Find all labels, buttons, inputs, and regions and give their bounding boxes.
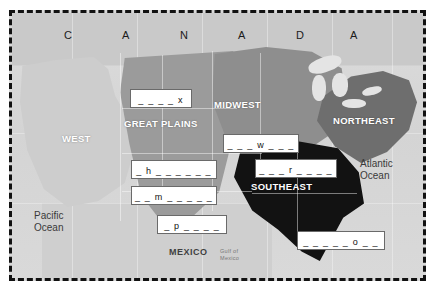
answer-blank-m[interactable]: _ _ m _ _ _ _ _ — [131, 186, 217, 205]
canada-letter: D — [296, 29, 304, 41]
state-boundary — [120, 53, 121, 221]
state-boundary — [122, 153, 262, 154]
answer-blank-w[interactable]: _ _ _ w _ _ _ — [223, 134, 299, 153]
water-label-atlantic: Atlantic Ocean — [360, 158, 393, 182]
water-label-line2: Ocean — [360, 170, 393, 182]
answer-blank-p-text: _ p _ _ _ _ — [164, 222, 220, 231]
answer-blank-h-text: _ h _ _ _ _ _ _ — [136, 167, 212, 176]
water-label-line1: Pacific — [34, 210, 63, 222]
canada-letter: A — [238, 29, 245, 41]
state-boundary — [252, 193, 357, 194]
state-boundary — [260, 53, 261, 173]
canada-letter: A — [350, 29, 357, 41]
region-label-midwest: MIDWEST — [214, 99, 261, 110]
region-label-great-plains: GREAT PLAINS — [124, 118, 198, 129]
answer-blank-p[interactable]: _ p _ _ _ _ — [157, 215, 227, 234]
worksheet-page: C A N A D A WEST GREAT PLAINS MIDWEST NO… — [0, 0, 435, 295]
canada-letter: N — [180, 29, 188, 41]
region-label-west: WEST — [62, 133, 91, 144]
water-label-line1: Gulf of — [220, 248, 239, 255]
answer-blank-r-text: _ _ _ r _ _ _ _ — [259, 166, 333, 175]
water-label-line1: Atlantic — [360, 158, 393, 170]
answer-blank-x[interactable]: _ _ _ _ x — [130, 89, 192, 108]
water-label-line2: Ocean — [34, 222, 63, 234]
answer-blank-o-text: _ _ _ _ _ o _ _ — [303, 238, 379, 247]
canada-letter: C — [64, 29, 72, 41]
region-label-northeast: NORTHEAST — [333, 115, 395, 126]
state-boundary — [162, 55, 163, 205]
great-lake-erie — [342, 99, 366, 108]
great-lake-huron — [332, 73, 348, 97]
country-label-mexico: MEXICO — [169, 247, 208, 257]
water-label-pacific: Pacific Ocean — [34, 210, 63, 234]
canada-letter: A — [122, 29, 129, 41]
great-lake-michigan — [312, 75, 326, 101]
answer-blank-m-text: _ _ m _ _ _ _ _ — [135, 193, 213, 202]
region-label-southeast: SOUTHEAST — [251, 181, 312, 192]
answer-blank-w-text: _ _ _ w _ _ _ — [227, 141, 294, 150]
answer-blank-h[interactable]: _ h _ _ _ _ _ _ — [131, 160, 217, 179]
answer-blank-r[interactable]: _ _ _ r _ _ _ _ — [255, 159, 337, 178]
answer-blank-x-text: _ _ _ _ x — [138, 96, 183, 105]
map-frame: C A N A D A WEST GREAT PLAINS MIDWEST NO… — [9, 10, 426, 281]
water-label-line2: Mexico — [220, 255, 239, 262]
answer-blank-o[interactable]: _ _ _ _ _ o _ _ — [297, 231, 385, 250]
water-label-gulf-of-mexico: Gulf of Mexico — [220, 248, 239, 262]
